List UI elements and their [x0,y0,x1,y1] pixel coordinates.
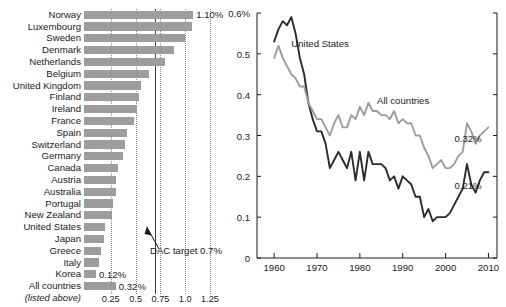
bar-fill [84,70,149,78]
bar-row-label: New Zealand [0,210,84,220]
bar-row: Japan [0,233,215,245]
line-chart-panel: 00.10.20.30.40.50.6% 1960197019801990200… [215,0,506,299]
bar-fill [84,11,193,19]
bar-x-tick-label: 0.75 [151,293,169,305]
bar-row-label: Portugal [0,199,84,209]
dac-target-annotation: DAC target 0.7% [150,245,222,256]
bar-row-label: Ireland [0,104,84,114]
bar-row-label: Australia [0,187,84,197]
bar-track [84,162,215,174]
end-label-all-countries: 0.32% [454,133,481,144]
bar-row: Sweden [0,33,215,45]
bar-track [84,139,215,151]
x-tick-label: 2010 [478,262,499,273]
bar-fill [84,140,125,148]
bar-fill [84,46,174,54]
bar-row-label: Finland [0,92,84,102]
bar-fill [84,176,116,184]
bar-track [84,44,215,56]
line-chart-svg [215,0,506,299]
bar-row: Korea0.12% [0,269,215,281]
x-tick-label: 1970 [306,262,327,273]
bar-row-label: Greece [0,246,84,256]
bar-fill [84,81,141,89]
bar-track [84,210,215,222]
bar-fill [84,117,134,125]
bar-row-label: All countries [0,281,84,291]
bar-row: Denmark [0,44,215,56]
bar-track [84,174,215,186]
bar-row: France [0,115,215,127]
y-tick-label: 0.1 [215,212,250,223]
bar-fill [84,129,127,137]
bar-fill [84,58,165,66]
bar-track [84,33,215,45]
end-label-united-states: 0.21% [454,180,481,191]
bar-chart-footnote: (listed above) [0,292,84,303]
bar-track: 1.10% [84,9,215,21]
y-tick-label: 0.6% [215,8,250,19]
bar-row: United States [0,221,215,233]
series-label-all-countries: All countries [377,95,429,106]
bar-track [84,92,215,104]
bar-row-label: Luxembourg [0,22,84,32]
bar-track [84,186,215,198]
x-tick-label: 1980 [349,262,370,273]
bar-fill [84,22,192,30]
bar-row-label: United States [0,222,84,232]
bar-fill [84,282,116,290]
bar-row-label: Germany [0,151,84,161]
bar-row: All countries0.32% [0,280,215,292]
bar-row: New Zealand [0,210,215,222]
bar-x-tick-label: 1.0 [179,293,192,305]
bar-fill [84,270,96,278]
bar-row: Finland [0,92,215,104]
bar-fill [84,34,185,42]
bar-x-tick-label: 0.5 [129,293,142,305]
bar-row: Spain [0,127,215,139]
bar-row: Canada [0,162,215,174]
bar-row-label: Italy [0,258,84,268]
bar-track [84,21,215,33]
bar-value-label: 0.32% [119,281,146,292]
bar-row: Norway1.10% [0,9,215,21]
bar-row: Belgium [0,68,215,80]
bar-fill [84,199,113,207]
series-label-united-states: United States [291,38,349,49]
bar-track [84,198,215,210]
x-tick-label: 1990 [392,262,413,273]
y-tick-label: 0.5 [215,48,250,59]
bar-value-label: 0.12% [99,269,126,280]
y-tick-label: 0.2 [215,171,250,182]
bar-row: Switzerland [0,139,215,151]
bar-row-label: Norway [0,10,84,20]
bar-row: Germany [0,151,215,163]
bar-row: Portugal [0,198,215,210]
bar-track [84,115,215,127]
bar-row-label: Denmark [0,45,84,55]
bar-row-label: Canada [0,163,84,173]
bar-track [84,80,215,92]
bar-track [84,151,215,163]
bar-chart-x-axis-ticks: 0.250.50.751.01.25 [86,293,215,307]
bar-fill [84,235,104,243]
line-chart-x-ticks [274,253,488,258]
bar-fill [84,258,99,266]
bar-track [84,127,215,139]
y-tick-label: 0.4 [215,89,250,100]
bar-row-label: France [0,116,84,126]
bar-chart-panel: Norway1.10%LuxembourgSwedenDenmarkNether… [0,0,215,299]
x-tick-label: 1960 [263,262,284,273]
bar-row: Australia [0,186,215,198]
bar-row-label: Belgium [0,69,84,79]
bar-row-label: Switzerland [0,140,84,150]
bar-track [84,103,215,115]
bar-track [84,68,215,80]
bar-fill [84,247,101,255]
bar-row-label: United Kingdom [0,81,84,91]
bar-row: Luxembourg [0,21,215,33]
bar-row-label: Sweden [0,33,84,43]
bar-row-label: Japan [0,234,84,244]
bar-track: 0.12% [84,269,215,281]
x-tick-label: 2000 [435,262,456,273]
